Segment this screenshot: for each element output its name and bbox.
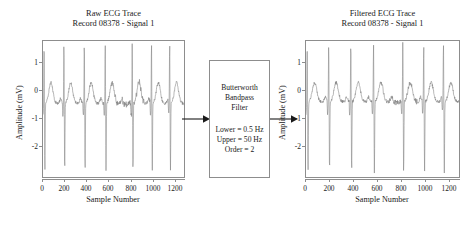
filtered-xtick-600: 600 xyxy=(371,184,382,193)
filtered-xtick-1200: 1200 xyxy=(442,184,457,193)
raw-xtick-200: 200 xyxy=(58,184,69,193)
filter-params-text: Lower = 0.5 Hz Upper = 50 Hz Order = 2 xyxy=(215,125,263,156)
filtered-panel-title-block: Filtered ECG Trace Record 08378 - Signal… xyxy=(305,9,460,29)
filtered-ecg-trace-svg xyxy=(306,41,459,177)
filter-param-order: Order = 2 xyxy=(215,145,263,155)
ecg-filtering-figure: Raw ECG Trace Record 08378 - Signal 1 1 … xyxy=(0,0,472,231)
raw-xtick-600: 600 xyxy=(102,184,113,193)
filtered-ytick--2: -2 xyxy=(287,142,301,151)
filter-param-lower: Lower = 0.5 Hz xyxy=(215,125,263,135)
filtered-ytick--1: -1 xyxy=(287,114,301,123)
raw-xaxis-label: Sample Number xyxy=(86,195,139,204)
filtered-ecg-panel: Filtered ECG Trace Record 08378 - Signal… xyxy=(278,0,472,231)
filter-name-line-3: Filter xyxy=(221,103,258,113)
raw-ytick--1: -1 xyxy=(24,114,38,123)
filtered-yaxis-label: Amplitude (mV) xyxy=(278,85,287,140)
raw-xtick-400: 400 xyxy=(80,184,91,193)
raw-ecg-trace-svg xyxy=(43,41,184,177)
filtered-panel-title: Filtered ECG Trace xyxy=(305,9,460,19)
raw-panel-subtitle: Record 08378 - Signal 1 xyxy=(42,19,185,29)
raw-yaxis-label: Amplitude (mV) xyxy=(15,85,24,140)
butterworth-filter-block: Butterworth Bandpass Filter Lower = 0.5 … xyxy=(209,60,270,178)
raw-ytick-0: 0 xyxy=(26,86,38,95)
filtered-ytick-0: 0 xyxy=(289,86,301,95)
filter-param-upper: Upper = 50 Hz xyxy=(215,135,263,145)
raw-panel-title-block: Raw ECG Trace Record 08378 - Signal 1 xyxy=(42,9,185,29)
filter-name-line-1: Butterworth xyxy=(221,83,258,93)
filtered-xtick-1000: 1000 xyxy=(418,184,433,193)
raw-ecg-panel: Raw ECG Trace Record 08378 - Signal 1 1 … xyxy=(0,0,200,231)
raw-ecg-axes xyxy=(42,40,185,178)
raw-xtick-1000: 1000 xyxy=(146,184,161,193)
filtered-xtick-0: 0 xyxy=(303,184,307,193)
arrow-raw-to-filter xyxy=(182,112,210,126)
filtered-xtick-400: 400 xyxy=(347,184,358,193)
filtered-xaxis-label: Sample Number xyxy=(355,195,408,204)
filtered-xtick-800: 800 xyxy=(395,184,406,193)
filtered-panel-subtitle: Record 08378 - Signal 1 xyxy=(305,19,460,29)
raw-panel-title: Raw ECG Trace xyxy=(42,9,185,19)
raw-xtick-0: 0 xyxy=(40,184,44,193)
raw-xtick-1200: 1200 xyxy=(168,184,183,193)
raw-ytick-1: 1 xyxy=(26,58,38,67)
filtered-ytick-1: 1 xyxy=(289,58,301,67)
filter-name-text: Butterworth Bandpass Filter xyxy=(221,83,258,114)
raw-xtick-800: 800 xyxy=(125,184,136,193)
filter-name-line-2: Bandpass xyxy=(221,93,258,103)
filtered-ecg-axes xyxy=(305,40,460,178)
raw-ytick--2: -2 xyxy=(24,142,38,151)
filtered-xtick-200: 200 xyxy=(323,184,334,193)
